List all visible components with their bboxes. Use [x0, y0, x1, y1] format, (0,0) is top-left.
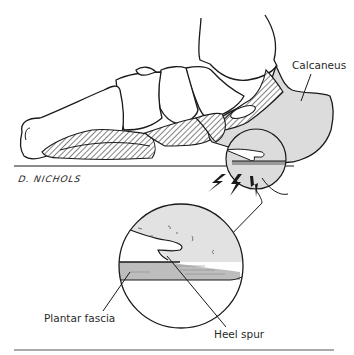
label-heel-spur: Heel spur [214, 328, 265, 340]
magnified-inset [110, 196, 245, 328]
label-plantar-fascia: Plantar fascia [44, 312, 115, 324]
artist-signature: D. NICHOLS [18, 174, 83, 184]
label-calcaneus: Calcaneus [292, 59, 346, 71]
foot-skeleton [14, 15, 333, 166]
heel-spur-illustration: Calcaneus D. NICHOLS [0, 0, 354, 355]
